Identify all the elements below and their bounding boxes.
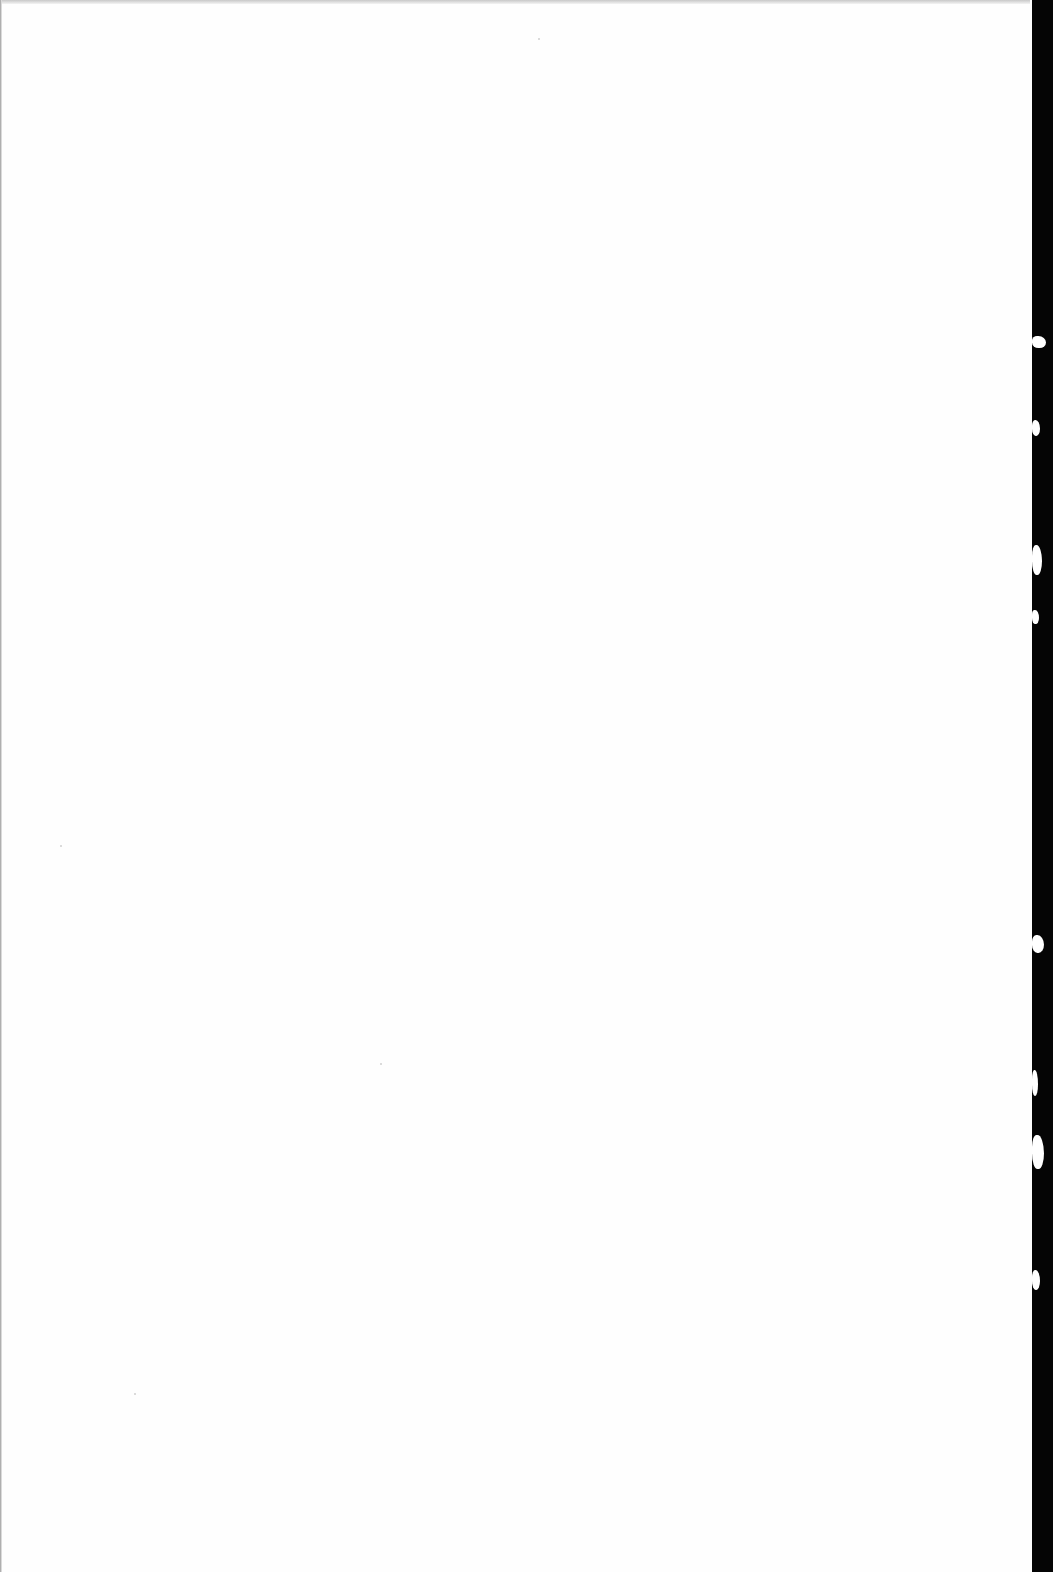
paper-speck bbox=[60, 845, 62, 847]
paper-speck bbox=[134, 1393, 136, 1395]
blank-page-body bbox=[40, 60, 980, 1500]
torn-edge-notch bbox=[1032, 545, 1042, 575]
torn-edge-notch bbox=[1032, 1270, 1040, 1290]
scanned-page bbox=[0, 0, 1053, 1572]
paper-speck bbox=[380, 1063, 382, 1065]
left-page-edge bbox=[0, 0, 2, 1572]
torn-edge-notch bbox=[1032, 610, 1039, 624]
top-scan-shadow bbox=[0, 0, 1030, 4]
paper-speck bbox=[538, 38, 540, 40]
binding-edge bbox=[1032, 0, 1053, 1572]
torn-edge-notch bbox=[1032, 1070, 1038, 1096]
torn-edge-notch bbox=[1032, 420, 1040, 436]
torn-edge-notch bbox=[1032, 935, 1044, 953]
torn-edge-notch bbox=[1032, 336, 1046, 348]
torn-edge-notch bbox=[1032, 1135, 1044, 1169]
